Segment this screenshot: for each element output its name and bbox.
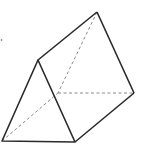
stray-dot bbox=[1, 39, 3, 41]
edge-front-top-to-back-top bbox=[38, 12, 97, 60]
front-triangle-face bbox=[2, 60, 75, 142]
edge-back-top-to-back-right bbox=[97, 12, 134, 93]
visible-edges bbox=[2, 12, 134, 142]
hidden-edge-back-top-to-back-left bbox=[58, 12, 97, 93]
hidden-edge-front-left-to-back-left bbox=[2, 93, 58, 141]
hidden-edges bbox=[2, 12, 134, 141]
edge-front-right-to-back-right bbox=[75, 93, 134, 142]
triangular-prism-diagram bbox=[0, 0, 145, 148]
